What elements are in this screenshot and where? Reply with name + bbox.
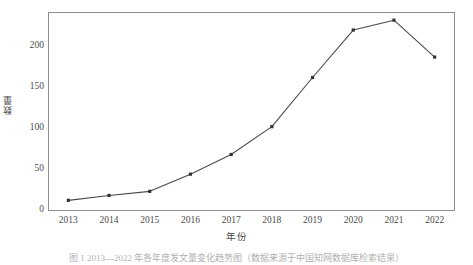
data-point-2018 [270, 125, 273, 128]
data-point-2017 [230, 153, 233, 156]
x-axis-tick-2014: 2014 [100, 214, 119, 226]
x-axis-tick-2018: 2018 [262, 214, 281, 226]
x-axis-tick-2013: 2013 [59, 214, 78, 226]
y-axis-tick-200: 200 [30, 40, 44, 50]
x-axis-tick-2021: 2021 [384, 214, 403, 226]
data-point-2013 [67, 199, 70, 202]
x-axis-tick-2017: 2017 [222, 214, 241, 226]
data-point-2022 [433, 55, 436, 58]
data-series-line [68, 20, 434, 200]
data-point-2020 [352, 28, 355, 31]
data-point-2019 [311, 76, 314, 79]
plot-svg [48, 12, 455, 211]
x-axis-tick-2022: 2022 [425, 214, 444, 226]
data-point-2016 [189, 173, 192, 176]
data-point-2014 [107, 194, 110, 197]
data-point-markers [67, 19, 437, 202]
y-axis-title: 数量 [2, 95, 16, 115]
data-point-2021 [392, 19, 395, 22]
x-axis-title: 年份 [0, 231, 473, 243]
figure-caption: 图 1 2013—2022 年各年度发文量变化趋势图（数据来源于中国知网数据库检… [0, 252, 473, 265]
y-axis-tick-150: 150 [30, 81, 44, 91]
figure-container: 200 150 100 50 0 数量 20132014201520162017… [0, 0, 473, 265]
x-axis-tick-2016: 2016 [181, 214, 200, 226]
x-axis-tick-2019: 2019 [303, 214, 322, 226]
data-point-2015 [148, 190, 151, 193]
y-axis-tick-0: 0 [39, 204, 44, 214]
y-axis-tick-50: 50 [35, 163, 45, 173]
x-axis-tick-2015: 2015 [140, 214, 159, 226]
x-axis-tick-2020: 2020 [344, 214, 363, 226]
x-axis-tick-layer: 2013201420152016201720182019202020212022 [0, 214, 473, 228]
y-axis-tick-100: 100 [30, 122, 44, 132]
